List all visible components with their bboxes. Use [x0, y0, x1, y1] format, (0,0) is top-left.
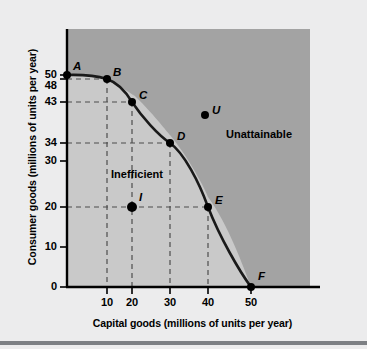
point-label-u: U	[212, 104, 220, 116]
x-tick-label-40: 40	[195, 296, 221, 308]
point-label-c: C	[139, 89, 147, 101]
annotation-unattainable: Unattainable	[226, 128, 292, 140]
point-marker-u	[201, 111, 209, 119]
point-label-i: I	[139, 191, 142, 203]
point-marker-e	[204, 203, 212, 211]
point-label-d: D	[177, 130, 185, 142]
point-label-b: B	[113, 66, 121, 78]
point-marker-a	[63, 71, 71, 79]
x-tick-label-50: 50	[238, 296, 264, 308]
point-marker-d	[166, 139, 174, 147]
point-marker-f	[247, 283, 255, 291]
point-label-a: A	[73, 60, 81, 72]
ppf-chart-canvas	[0, 0, 367, 349]
x-axis-title: Capital goods (millions of units per yea…	[60, 317, 325, 329]
point-marker-b	[103, 75, 111, 83]
point-label-e: E	[215, 194, 223, 206]
ppf-figure: 50 48 43 34 30 20 10 0 10 20 30 40 50 A …	[0, 0, 367, 349]
x-tick-label-10: 10	[94, 296, 120, 308]
x-tick-label-30: 30	[157, 296, 183, 308]
y-axis-title: Consumer goods (millions of units per ye…	[26, 29, 38, 285]
point-marker-c	[128, 98, 136, 106]
x-tick-label-20: 20	[119, 296, 145, 308]
point-marker-i	[127, 202, 137, 212]
annotation-inefficient: Inefficient	[111, 168, 163, 180]
point-label-f: F	[258, 270, 265, 282]
